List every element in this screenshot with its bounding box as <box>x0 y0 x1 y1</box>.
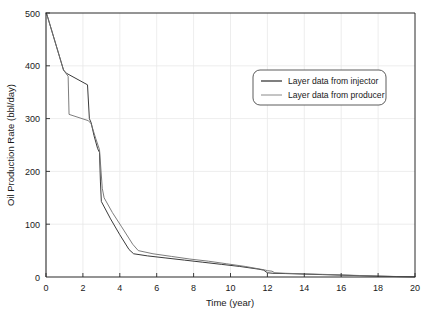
x-tick-label: 20 <box>410 283 420 293</box>
y-tick-labels: 0100200300400500 <box>25 9 40 283</box>
chart-figure: 02468101214161820 0100200300400500 Time … <box>0 0 431 314</box>
y-tick-label: 100 <box>25 220 40 230</box>
line-chart: 02468101214161820 0100200300400500 Time … <box>0 0 431 314</box>
x-tick-label: 6 <box>154 283 159 293</box>
x-tick-label: 8 <box>191 283 196 293</box>
y-axis-title: Oil Production Rate (bbl/day) <box>5 84 16 206</box>
y-tick-label: 400 <box>25 61 40 71</box>
x-tick-label: 16 <box>336 283 346 293</box>
legend-label-injector: Layer data from injector <box>288 76 378 86</box>
x-tick-label: 10 <box>225 283 235 293</box>
x-tick-label: 0 <box>43 283 48 293</box>
x-tick-label: 18 <box>373 283 383 293</box>
y-tick-label: 0 <box>35 273 40 283</box>
x-tick-label: 2 <box>80 283 85 293</box>
x-axis-title: Time (year) <box>206 297 254 308</box>
legend-label-producer: Layer data from producer <box>288 90 385 100</box>
x-tick-labels: 02468101214161820 <box>43 283 420 293</box>
y-tick-label: 300 <box>25 114 40 124</box>
y-tick-label: 200 <box>25 167 40 177</box>
x-tick-label: 14 <box>299 283 309 293</box>
chart-legend: Layer data from injector Layer data from… <box>253 70 386 105</box>
x-tick-label: 12 <box>262 283 272 293</box>
y-tick-label: 500 <box>25 9 40 19</box>
x-tick-label: 4 <box>117 283 122 293</box>
